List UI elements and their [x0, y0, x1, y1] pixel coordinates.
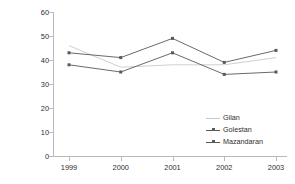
series-gilan	[69, 46, 276, 68]
legend-label: Mazandaran	[223, 137, 263, 147]
x-tick-mark	[276, 157, 277, 161]
x-tick-mark	[121, 157, 122, 161]
y-tick-mark	[49, 60, 53, 61]
x-tick-label: 2002	[216, 163, 232, 172]
legend-label: Golestan	[223, 125, 252, 135]
data-point	[223, 73, 226, 76]
y-tick-mark	[49, 12, 53, 13]
legend-item-golestan[interactable]: Golestan	[206, 124, 292, 136]
legend: GilanGolestanMazandaran	[206, 112, 292, 148]
series-plot-area	[0, 0, 295, 184]
series-mazandaran	[68, 37, 278, 64]
y-tick-mark	[49, 36, 53, 37]
line-chart: Number of wader species 0102030405060 19…	[0, 0, 295, 184]
y-tick-mark	[49, 156, 53, 157]
legend-label: Gilan	[223, 113, 240, 123]
data-point	[275, 71, 278, 74]
data-point	[68, 63, 71, 66]
data-point	[223, 61, 226, 64]
x-tick-mark	[173, 157, 174, 161]
legend-swatch-icon	[206, 137, 220, 147]
x-tick-label: 2000	[113, 163, 129, 172]
x-tick-label: 2003	[268, 163, 284, 172]
legend-item-mazandaran[interactable]: Mazandaran	[206, 136, 292, 148]
data-point	[119, 56, 122, 59]
y-tick-mark	[49, 132, 53, 133]
x-tick-label: 2001	[164, 163, 180, 172]
data-point	[171, 37, 174, 40]
legend-swatch-icon	[206, 125, 220, 135]
data-point	[275, 49, 278, 52]
legend-swatch-icon	[206, 113, 220, 123]
x-tick-label: 1999	[61, 163, 77, 172]
series-golestan	[68, 51, 278, 76]
y-tick-mark	[49, 84, 53, 85]
data-point	[119, 71, 122, 74]
x-tick-mark	[224, 157, 225, 161]
data-point	[171, 51, 174, 54]
y-tick-mark	[49, 108, 53, 109]
data-point	[68, 51, 71, 54]
legend-item-gilan[interactable]: Gilan	[206, 112, 292, 124]
x-tick-mark	[69, 157, 70, 161]
series-line	[69, 46, 276, 68]
